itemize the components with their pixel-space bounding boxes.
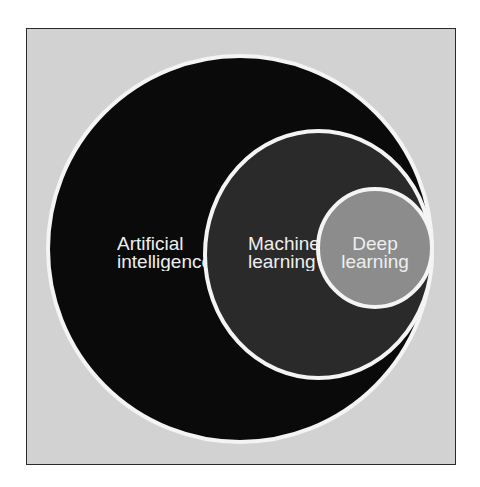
ml-label: Machine learning — [248, 235, 320, 271]
dl-label-line2: learning — [318, 253, 432, 271]
ml-label-line2: learning — [248, 253, 320, 271]
ai-label: Artificial intelligence — [117, 235, 205, 271]
dl-label: Deep learning — [318, 235, 432, 271]
ai-label-line2: intelligence — [117, 253, 205, 271]
